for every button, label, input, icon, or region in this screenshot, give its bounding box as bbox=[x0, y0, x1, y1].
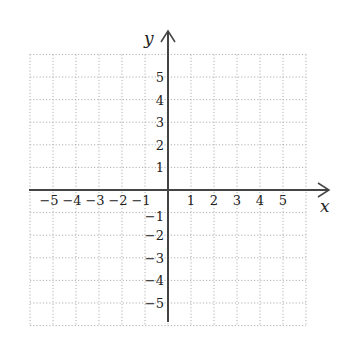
x-axis-label: x bbox=[320, 196, 330, 216]
x-tick-label: 3 bbox=[233, 193, 241, 208]
y-tick-label: −4 bbox=[145, 273, 164, 288]
y-tick-label: −1 bbox=[145, 209, 164, 224]
y-tick-label: −3 bbox=[145, 251, 164, 266]
y-tick-label: 5 bbox=[156, 70, 164, 85]
y-tick-label: −2 bbox=[145, 228, 164, 243]
x-tick-label: 4 bbox=[256, 193, 264, 208]
y-axis-label: y bbox=[143, 28, 154, 48]
y-tick-label: 4 bbox=[156, 93, 164, 108]
coordinate-plane: x y −5−4−3−2−112345 54321−1−2−3−4−5 bbox=[0, 0, 354, 342]
y-tick-label: 1 bbox=[156, 160, 164, 175]
x-tick-label: −1 bbox=[131, 193, 150, 208]
x-tick-labels: −5−4−3−2−112345 bbox=[39, 193, 287, 208]
x-tick-label: 2 bbox=[210, 193, 218, 208]
x-tick-label: −3 bbox=[85, 193, 104, 208]
x-tick-label: −5 bbox=[39, 193, 58, 208]
x-tick-label: −2 bbox=[108, 193, 127, 208]
y-tick-label: −5 bbox=[145, 296, 164, 311]
x-tick-label: 5 bbox=[279, 193, 287, 208]
y-tick-label: 3 bbox=[156, 115, 164, 130]
x-tick-label: −4 bbox=[62, 193, 81, 208]
y-tick-label: 2 bbox=[156, 138, 164, 153]
x-tick-label: 1 bbox=[187, 193, 195, 208]
